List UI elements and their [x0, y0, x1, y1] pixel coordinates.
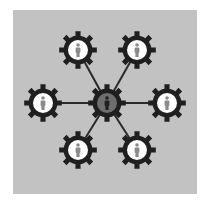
person-body: [76, 47, 81, 53]
person-body: [105, 100, 110, 106]
person-body: [76, 147, 81, 153]
gear-node-top-right: [118, 31, 156, 69]
gear-node-bottom-right: [118, 131, 156, 169]
person-head: [165, 96, 169, 100]
person-legs: [76, 153, 79, 158]
diagram-canvas: [13, 10, 197, 194]
person-head: [76, 143, 80, 147]
person-head: [41, 96, 45, 100]
hub-gear-node: [88, 84, 126, 122]
person-head: [135, 43, 139, 47]
person-head: [76, 43, 80, 47]
gear-node-top-left: [59, 31, 97, 69]
person-body: [165, 100, 170, 106]
person-head: [135, 143, 139, 147]
gear-node-bottom-left: [59, 131, 97, 169]
person-legs: [76, 53, 79, 58]
person-legs: [41, 106, 44, 111]
person-legs: [165, 106, 168, 111]
person-legs: [135, 153, 138, 158]
gear-node-left: [24, 84, 62, 122]
person-body: [41, 100, 46, 106]
person-body: [135, 47, 140, 53]
person-body: [135, 147, 140, 153]
network-diagram: [13, 10, 197, 194]
gear-node-right: [148, 84, 186, 122]
person-legs: [105, 106, 108, 111]
person-legs: [135, 53, 138, 58]
person-head: [105, 96, 109, 100]
